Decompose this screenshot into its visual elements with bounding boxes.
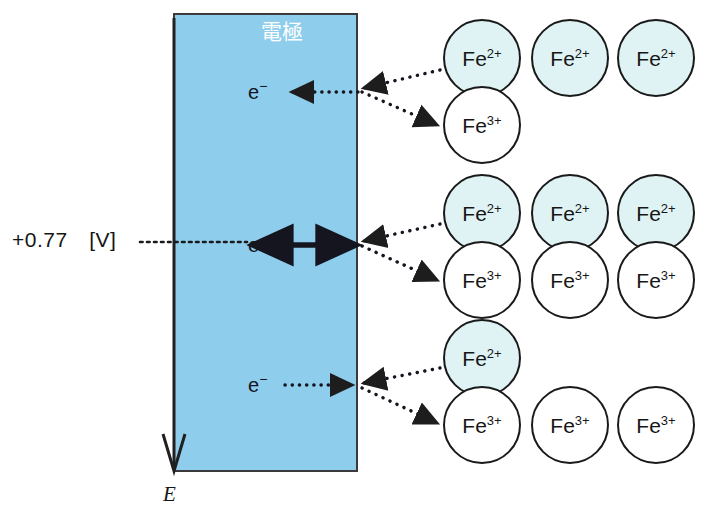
ion-fe3-bot-3: Fe3+ [617, 386, 695, 464]
ion-label: Fe3+ [550, 415, 589, 436]
ion-label: Fe3+ [462, 270, 501, 291]
electron-symbol-top: e [248, 81, 259, 103]
ion-label: Fe3+ [636, 415, 675, 436]
electron-charge-top: − [259, 78, 267, 94]
electron-label-top: e− [248, 82, 267, 102]
ion-label: Fe2+ [462, 348, 501, 369]
ion-fe3-top-1: Fe3+ [443, 86, 521, 164]
ion-fe3-mid-3: Fe3+ [617, 241, 695, 319]
electron-charge-bottom: − [259, 371, 267, 387]
ion-label: Fe3+ [636, 270, 675, 291]
electron-label-middle: e− [248, 235, 267, 255]
electrochemistry-diagram: 電極 [0, 0, 704, 522]
energy-axis-arrow [163, 18, 185, 471]
electron-symbol-bottom: e [248, 374, 259, 396]
ion-label: Fe2+ [462, 203, 501, 224]
ion-label: Fe2+ [550, 203, 589, 224]
ion-fe3-bot-2: Fe3+ [531, 386, 609, 464]
energy-axis-label: E [163, 484, 176, 505]
bottom-row-reaction-arrows [362, 368, 440, 423]
ion-fe3-mid-1: Fe3+ [443, 241, 521, 319]
ion-label: Fe3+ [462, 115, 501, 136]
ion-label: Fe2+ [636, 203, 675, 224]
ion-label: Fe2+ [550, 48, 589, 69]
ion-label: Fe2+ [462, 48, 501, 69]
ion-label: Fe3+ [550, 270, 589, 291]
electron-label-bottom: e− [248, 375, 267, 395]
electron-charge-middle: − [259, 231, 267, 247]
electron-symbol-middle: e [248, 234, 259, 256]
ion-fe2-top-2: Fe2+ [531, 19, 609, 97]
middle-row-reaction-arrows [362, 224, 440, 280]
voltage-label: +0.77 [V] [12, 229, 116, 250]
ion-label: Fe2+ [636, 48, 675, 69]
ion-fe2-top-3: Fe2+ [617, 19, 695, 97]
ion-label: Fe3+ [462, 415, 501, 436]
ion-fe3-bot-1: Fe3+ [443, 386, 521, 464]
top-row-reaction-arrows [362, 70, 440, 125]
ion-fe3-mid-2: Fe3+ [531, 241, 609, 319]
